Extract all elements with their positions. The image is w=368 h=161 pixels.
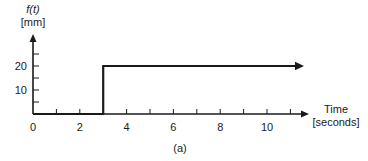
step-function-chart: 20 10 f(t) [mm] 0 2 4 6 8 10 Time [secon… xyxy=(0,0,368,161)
x-axis-arrow-icon xyxy=(301,111,309,118)
x-tick-label-6: 6 xyxy=(170,121,176,133)
x-tick-label-10: 10 xyxy=(261,121,273,133)
figure-caption: (a) xyxy=(173,142,186,154)
y-axis: 20 10 xyxy=(15,34,39,114)
y-tick-label-10: 10 xyxy=(15,84,27,96)
x-tick-label-0: 0 xyxy=(30,121,36,133)
series-arrow-icon xyxy=(295,62,304,70)
x-tick-label-2: 2 xyxy=(77,121,83,133)
x-axis: 0 2 4 6 8 10 xyxy=(30,109,309,133)
x-tick-label-4: 4 xyxy=(124,121,130,133)
x-axis-title: Time xyxy=(324,103,348,115)
y-tick-label-20: 20 xyxy=(15,60,27,72)
series-step-function xyxy=(33,62,304,114)
y-axis-unit: [mm] xyxy=(21,16,45,28)
x-tick-label-8: 8 xyxy=(217,121,223,133)
y-axis-title: f(t) xyxy=(26,3,40,15)
step-line xyxy=(33,66,297,114)
x-axis-unit: [seconds] xyxy=(312,116,359,128)
y-axis-arrow-icon xyxy=(30,34,37,42)
